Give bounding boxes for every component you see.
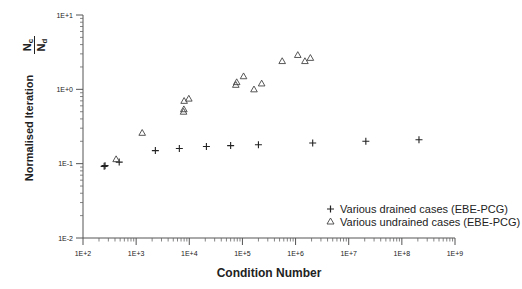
plus-marker-icon — [415, 136, 422, 143]
y-axis-fraction: Nc Nd — [21, 36, 49, 54]
legend-item-undrained: Various undrained cases (EBE-PCG) — [327, 216, 520, 228]
triangle-marker-icon — [279, 58, 286, 64]
x-axis-title: Condition Number — [217, 266, 322, 280]
y-axis-title-text: Normalised Iteration — [23, 75, 35, 182]
plus-marker-icon — [227, 142, 234, 149]
plus-marker-icon — [152, 147, 159, 154]
plus-marker-icon — [309, 139, 316, 146]
y-tick-label: 1E+0 — [56, 86, 73, 93]
plus-marker-icon — [327, 206, 334, 213]
x-tick-label: 1E+8 — [394, 250, 411, 257]
triangle-marker-icon — [181, 98, 188, 104]
legend-label-undrained: Various undrained cases (EBE-PCG) — [340, 216, 520, 228]
y-axis-ticks: 1E-21E-11E+01E+1 — [56, 12, 83, 242]
x-tick-label: 1E+7 — [340, 250, 357, 257]
x-tick-label: 1E+3 — [128, 250, 145, 257]
y-tick-label: 1E-2 — [58, 235, 73, 242]
plus-marker-icon — [203, 143, 210, 150]
data-points — [101, 52, 423, 170]
triangle-marker-icon — [113, 156, 120, 162]
triangle-marker-icon — [258, 80, 265, 86]
triangle-marker-icon — [327, 218, 334, 224]
svg-text:Nc: Nc — [21, 38, 35, 51]
triangle-marker-icon — [251, 86, 258, 92]
x-tick-label: 1E+6 — [287, 250, 304, 257]
plus-marker-icon — [101, 163, 108, 170]
triangle-marker-icon — [294, 52, 301, 58]
y-tick-label: 1E+1 — [56, 12, 73, 19]
plus-marker-icon — [362, 138, 369, 145]
fraction-denominator: N — [35, 43, 47, 51]
x-tick-label: 1E+2 — [75, 250, 92, 257]
plus-marker-icon — [255, 141, 262, 148]
plus-marker-icon — [102, 162, 109, 169]
fraction-numerator-sub: c — [26, 38, 35, 43]
legend-label-drained: Various drained cases (EBE-PCG) — [340, 203, 508, 215]
x-tick-label: 1E+9 — [447, 250, 464, 257]
fraction-denominator-sub: d — [40, 38, 49, 43]
x-tick-label: 1E+4 — [181, 250, 198, 257]
plus-marker-icon — [176, 145, 183, 152]
y-axis-title: Normalised Iteration — [23, 75, 35, 182]
x-axis-ticks: 1E+21E+31E+41E+51E+61E+71E+81E+9 — [75, 238, 464, 257]
triangle-marker-icon — [240, 73, 247, 79]
legend: Various drained cases (EBE-PCG) Various … — [327, 203, 520, 228]
fraction-numerator: N — [21, 43, 33, 51]
svg-text:Nd: Nd — [35, 38, 49, 51]
triangle-marker-icon — [307, 55, 314, 61]
triangle-marker-icon — [139, 130, 146, 136]
x-tick-label: 1E+5 — [234, 250, 251, 257]
triangle-marker-icon — [186, 95, 193, 101]
legend-item-drained: Various drained cases (EBE-PCG) — [327, 203, 508, 215]
scatter-chart: 1E-21E-11E+01E+1 1E+21E+31E+41E+51E+61E+… — [0, 0, 522, 289]
y-tick-label: 1E-1 — [58, 160, 73, 167]
